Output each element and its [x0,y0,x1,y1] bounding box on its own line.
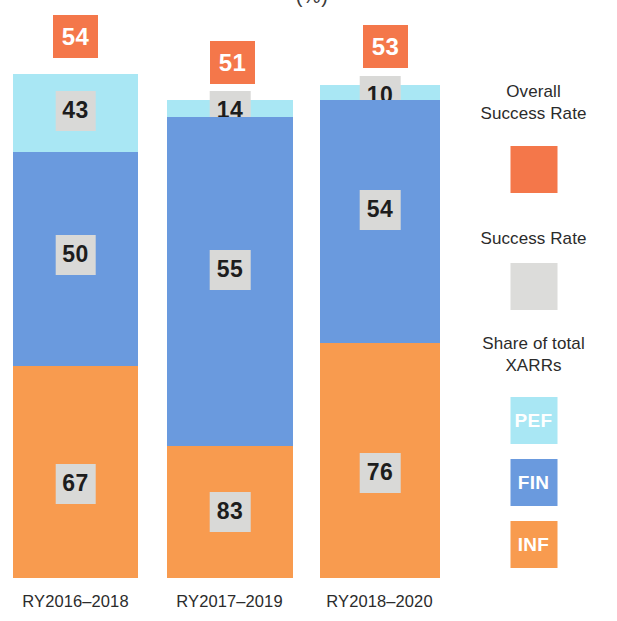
legend-share-label: Share of total XARRs [450,333,617,378]
plot-area: 435067541455835110547653RY2016–2018RY201… [0,0,450,590]
segment-value-chip: 43 [55,91,96,131]
segment-value-chip: 83 [210,492,251,532]
bar-segment-inf: 67 [13,366,138,578]
legend-swatch-overall-success-rate [510,146,557,193]
segment-value-chip: 50 [55,235,96,275]
overall-success-rate-chip: 53 [363,25,408,68]
legend-swatch-inf: INF [510,521,557,568]
stacked-bar-chart: (%) 435067541455835110547653RY2016–2018R… [0,0,617,621]
bar-column: 145583 [167,100,293,578]
bar-column: 105476 [320,85,440,578]
bar-segment-inf: 83 [167,446,293,578]
legend-success-line1: Success Rate [480,229,586,248]
x-axis-label: RY2018–2020 [307,592,452,611]
legend-overall-line1: Overall [506,82,561,101]
x-axis-label: RY2016–2018 [3,592,148,611]
overall-success-rate-chip: 51 [210,41,255,84]
segment-value-chip: 67 [55,464,96,504]
legend-overall-line2: Success Rate [480,104,586,123]
bar-segment-fin: 55 [167,117,293,446]
legend-share-line1: Share of total [482,334,585,353]
bar-column: 435067 [13,74,138,578]
chart-legend: Overall Success Rate Success Rate Share … [450,0,617,621]
overall-success-rate-chip: 54 [53,15,98,58]
legend-share-line2: XARRs [505,356,561,375]
bar-segment-fin: 50 [13,152,138,366]
legend-swatch-pef: PEF [510,397,557,444]
bar-segment-inf: 76 [320,343,440,578]
legend-swatch-success-rate [510,263,557,310]
x-axis-label: RY2017–2019 [157,592,302,611]
bar-segment-pef: 10 [320,85,440,100]
bar-segment-pef: 43 [13,74,138,152]
legend-swatch-fin: FIN [510,459,557,506]
legend-success-rate-label: Success Rate [450,228,617,250]
legend-overall-label: Overall Success Rate [450,81,617,126]
bar-segment-pef: 14 [167,100,293,117]
bar-segment-fin: 54 [320,100,440,343]
segment-value-chip: 55 [210,250,251,290]
segment-value-chip: 54 [360,190,401,230]
segment-value-chip: 76 [360,453,401,493]
